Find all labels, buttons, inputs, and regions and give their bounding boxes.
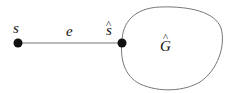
region-g-hat-label: G — [160, 39, 171, 54]
graph-diagram: s e ^ s ^ G — [0, 0, 235, 93]
edge-e-label: e — [66, 24, 73, 39]
region-g-hat-outline — [122, 7, 223, 90]
node-s-label: s — [13, 21, 19, 36]
node-s-hat — [118, 39, 127, 48]
node-s-hat-label: s — [106, 23, 112, 38]
node-s — [14, 39, 23, 48]
diagram-canvas — [0, 0, 235, 93]
